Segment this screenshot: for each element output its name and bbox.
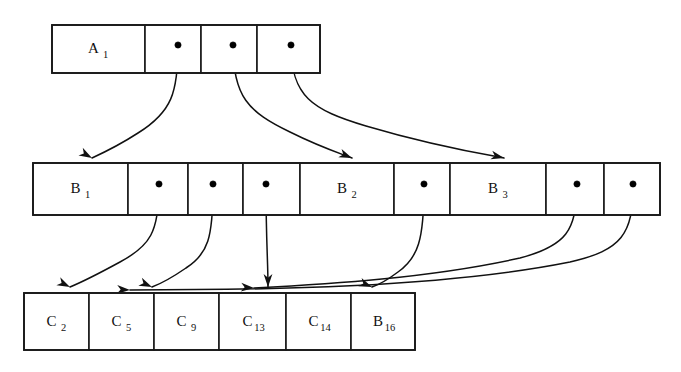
cell-label: C <box>111 313 121 329</box>
leaf-row: C2C5C9C13C14B16 <box>24 293 415 350</box>
index-cell-key[interactable]: B2 <box>300 163 394 215</box>
cell-label-subscript: 13 <box>254 322 265 333</box>
index-rows-layer: A1B1B2B3C2C5C9C13C14B16 <box>0 0 681 372</box>
cell-label: C <box>308 313 318 329</box>
cell-border <box>243 163 300 215</box>
index-cell-pointer[interactable] <box>188 163 243 215</box>
diagram-canvas: A1B1B2B3C2C5C9C13C14B16 <box>0 0 681 372</box>
cell-label: B <box>70 180 80 196</box>
pointer-dot-icon[interactable] <box>574 181 580 187</box>
cell-border <box>188 163 243 215</box>
cell-label-subscript: 5 <box>126 322 131 333</box>
index-cell-key[interactable]: B16 <box>351 293 415 350</box>
cell-label-subscript: 16 <box>385 322 396 333</box>
cell-label: C <box>242 313 252 329</box>
index-cell-key[interactable]: C13 <box>219 293 286 350</box>
cell-label: B <box>373 313 383 329</box>
pointer-dot-icon[interactable] <box>263 181 269 187</box>
cell-label-subscript: 3 <box>502 189 507 200</box>
pointer-dot-icon[interactable] <box>230 42 236 48</box>
cell-label: C <box>46 313 56 329</box>
cell-border <box>201 25 257 73</box>
cell-border <box>546 163 604 215</box>
index-cell-pointer[interactable] <box>257 25 320 73</box>
index-cell-pointer[interactable] <box>546 163 604 215</box>
pointer-dot-icon[interactable] <box>630 181 636 187</box>
cell-label-subscript: 9 <box>191 322 196 333</box>
index-cell-key[interactable]: B3 <box>450 163 546 215</box>
index-cell-key[interactable]: B1 <box>33 163 128 215</box>
index-cell-pointer[interactable] <box>145 25 201 73</box>
index-cell-pointer[interactable] <box>201 25 257 73</box>
index-cell-key[interactable]: C14 <box>286 293 351 350</box>
index-cell-pointer[interactable] <box>243 163 300 215</box>
index-cell-key[interactable]: C9 <box>154 293 219 350</box>
cell-label: C <box>176 313 186 329</box>
pointer-dot-icon[interactable] <box>421 181 427 187</box>
cell-border <box>604 163 660 215</box>
index-cell-key[interactable]: A1 <box>52 25 145 73</box>
cell-border <box>394 163 450 215</box>
cell-border <box>257 25 320 73</box>
cell-label-subscript: 14 <box>320 322 331 333</box>
index-cell-pointer[interactable] <box>604 163 660 215</box>
pointer-dot-icon[interactable] <box>156 181 162 187</box>
cell-label-subscript: 2 <box>351 189 356 200</box>
pointer-dot-icon[interactable] <box>210 181 216 187</box>
cell-label-subscript: 1 <box>85 189 90 200</box>
cell-label: B <box>337 180 347 196</box>
index-cell-pointer[interactable] <box>394 163 450 215</box>
pointer-dot-icon[interactable] <box>175 42 181 48</box>
index-cell-key[interactable]: C5 <box>89 293 154 350</box>
cell-label: B <box>488 180 498 196</box>
index-cell-pointer[interactable] <box>128 163 188 215</box>
top-index-row: A1 <box>52 25 320 73</box>
cell-border <box>145 25 201 73</box>
cell-label-subscript: 2 <box>61 322 66 333</box>
cell-label-subscript: 1 <box>103 49 108 60</box>
index-cell-key[interactable]: C2 <box>24 293 89 350</box>
cell-border <box>128 163 188 215</box>
pointer-dot-icon[interactable] <box>288 42 294 48</box>
middle-index-row: B1B2B3 <box>33 163 660 215</box>
cell-label: A <box>88 40 99 56</box>
